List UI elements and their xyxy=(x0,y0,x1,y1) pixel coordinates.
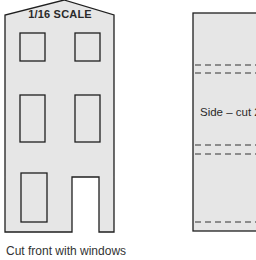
side-panel-outline xyxy=(193,13,256,231)
scale-label: 1/16 SCALE xyxy=(0,8,120,20)
front-panel-caption: Cut front with windows xyxy=(6,244,126,258)
side-panel-label: Side – cut 2 xyxy=(200,106,256,118)
pattern-diagram xyxy=(0,0,256,260)
